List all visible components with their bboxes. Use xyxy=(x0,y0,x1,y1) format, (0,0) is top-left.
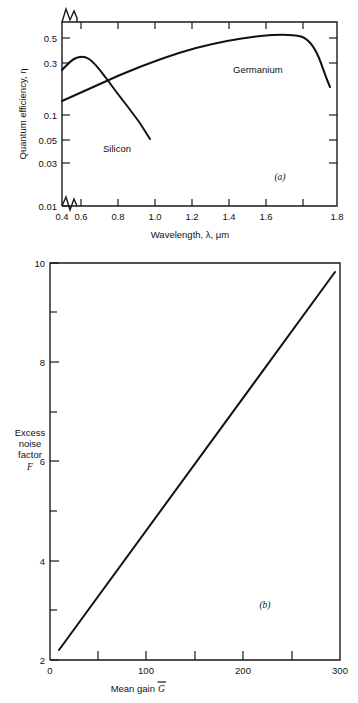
chart-a-svg: 0.5 0.3 0.1 0.05 0.03 0.01 0.4 0.6 0.8 1… xyxy=(0,0,358,248)
x-tick-label: 300 xyxy=(332,665,348,676)
chart-a-y-axis-title: Quantum efficiency, η xyxy=(17,68,28,159)
x-axis-break-icon xyxy=(62,197,77,210)
x-tick-label: 200 xyxy=(235,665,251,676)
chart-b-x-axis-title: Mean gain G xyxy=(111,682,166,694)
chart-a-y-ticks-right xyxy=(329,38,337,163)
y-axis-break-icon xyxy=(62,9,77,22)
y-axis-title-line1: Excess xyxy=(15,427,46,438)
chart-a-y-tick-labels: 0.5 0.3 0.1 0.05 0.03 0.01 xyxy=(39,33,58,212)
chart-a-x-axis-title: Wavelength, λ, μm xyxy=(151,229,230,240)
chart-panel-a: 0.5 0.3 0.1 0.05 0.03 0.01 0.4 0.6 0.8 1… xyxy=(0,0,358,248)
panel-tag-b: (b) xyxy=(259,600,270,611)
chart-b-y-tick-labels: 10 8 6 4 2 xyxy=(34,258,45,666)
y-tick-label: 0.01 xyxy=(39,201,58,212)
y-axis-title-line4: F xyxy=(26,462,33,472)
chart-b-y-ticks xyxy=(50,263,59,660)
y-tick-label: 0.05 xyxy=(39,135,58,146)
chart-b-x-tick-labels: 0 100 200 300 xyxy=(47,665,348,676)
y-tick-label: 0.1 xyxy=(44,110,57,121)
series-label-germanium: Germanium xyxy=(233,64,283,75)
x-tick-label: 1.4 xyxy=(222,211,235,222)
x-tick-label: 0 xyxy=(47,665,52,676)
x-tick-label: 0.4 xyxy=(55,211,68,222)
x-axis-title-symbol: G xyxy=(158,684,165,694)
y-tick-label: 2 xyxy=(40,655,45,666)
chart-b-frame xyxy=(50,263,340,660)
chart-a-x-ticks xyxy=(81,199,303,206)
chart-b-svg: 10 8 6 4 2 0 100 200 300 xyxy=(0,248,358,703)
y-tick-label: 8 xyxy=(40,357,45,368)
x-tick-label: 1.2 xyxy=(185,211,198,222)
x-tick-label: 0.8 xyxy=(111,211,124,222)
y-tick-label: 10 xyxy=(34,258,45,269)
x-tick-label: 1.0 xyxy=(148,211,161,222)
chart-a-x-tick-labels: 0.4 0.6 0.8 1.0 1.2 1.4 1.6 1.8 xyxy=(55,211,343,222)
series-line-excess-noise xyxy=(59,272,335,650)
chart-a-frame xyxy=(62,22,337,206)
y-tick-label: 0.03 xyxy=(39,158,58,169)
y-tick-label: 0.5 xyxy=(44,33,57,44)
y-tick-label: 4 xyxy=(40,556,45,567)
x-tick-label: 1.8 xyxy=(330,211,343,222)
chart-a-top-ticks xyxy=(81,22,303,29)
figure-container: 0.5 0.3 0.1 0.05 0.03 0.01 0.4 0.6 0.8 1… xyxy=(0,0,358,703)
panel-tag-a: (a) xyxy=(274,172,285,183)
chart-panel-b: 10 8 6 4 2 0 100 200 300 xyxy=(0,248,358,703)
chart-b-x-ticks xyxy=(98,651,292,660)
x-tick-label: 0.6 xyxy=(74,211,87,222)
x-tick-label: 1.6 xyxy=(259,211,272,222)
x-axis-title-prefix: Mean gain xyxy=(111,683,155,694)
series-curve-germanium xyxy=(62,35,330,101)
series-label-silicon: Silicon xyxy=(103,143,131,154)
y-axis-title-line3: factor xyxy=(18,449,42,460)
x-tick-label: 100 xyxy=(138,665,154,676)
y-tick-label: 0.3 xyxy=(44,58,57,69)
y-axis-title-line2: noise xyxy=(19,438,42,449)
